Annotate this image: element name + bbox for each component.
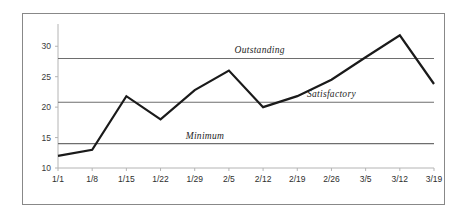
- reference-line-label: Outstanding: [235, 45, 285, 55]
- y-tick-label: 15: [42, 133, 52, 143]
- x-tick-label: 2/26: [323, 174, 340, 184]
- x-tick-label: 3/5: [360, 174, 372, 184]
- y-tick-label: 10: [42, 163, 52, 173]
- x-tick-label: 3/12: [392, 174, 409, 184]
- x-tick-label: 1/22: [152, 174, 169, 184]
- x-tick-label: 1/8: [86, 174, 98, 184]
- y-tick-label: 30: [42, 41, 52, 51]
- x-tick-label: 2/12: [255, 174, 272, 184]
- reference-line-label: Satisfactory: [307, 89, 356, 99]
- x-tick-label: 2/5: [223, 174, 235, 184]
- x-tick-label: 1/29: [186, 174, 203, 184]
- y-tick-label: 20: [42, 102, 52, 112]
- chart-frame: 10152025301/11/81/151/221/292/52/122/192…: [22, 13, 445, 205]
- x-tick-label: 1/15: [118, 174, 135, 184]
- reference-line-label: Minimum: [185, 131, 225, 141]
- y-tick-label: 25: [42, 72, 52, 82]
- line-chart-svg: 10152025301/11/81/151/221/292/52/122/192…: [23, 14, 446, 206]
- screenshot-root: 10152025301/11/81/151/221/292/52/122/192…: [0, 0, 466, 219]
- x-tick-label: 1/1: [52, 174, 64, 184]
- x-tick-label: 3/19: [426, 174, 443, 184]
- x-tick-label: 2/19: [289, 174, 306, 184]
- plot-area: 10152025301/11/81/151/221/292/52/122/192…: [23, 14, 446, 206]
